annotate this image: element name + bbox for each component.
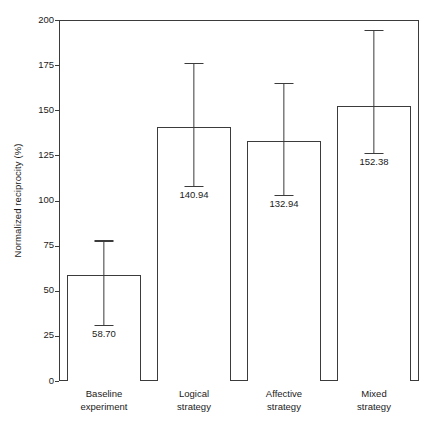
x-tick-label: Baselineexperiment <box>81 388 128 413</box>
bar-value-label: 140.94 <box>179 189 208 200</box>
error-bar-cap-lower <box>275 195 294 196</box>
error-bar-line <box>193 63 194 186</box>
y-axis-tick-labels: 0255075100125150175200 <box>28 0 54 436</box>
y-tick-label: 50 <box>28 285 54 295</box>
x-tick-label-line: strategy <box>266 401 302 414</box>
x-tick-label-line: Baseline <box>81 388 128 401</box>
y-tick-mark <box>55 381 59 382</box>
x-axis-tick-labels: BaselineexperimentLogicalstrategyAffecti… <box>59 385 419 431</box>
y-tick-label: 75 <box>28 240 54 250</box>
y-tick-label: 25 <box>28 330 54 340</box>
error-bar-cap-lower <box>365 153 384 154</box>
y-axis-title: Normalized reciprocity (%) <box>12 20 26 381</box>
x-tick-label: Affectivestrategy <box>266 388 302 413</box>
error-bar-cap-lower <box>95 325 114 326</box>
x-tick-label-line: experiment <box>81 401 128 414</box>
x-tick-label: Mixedstrategy <box>357 388 391 413</box>
error-bar-line <box>283 83 284 195</box>
error-bar-cap-upper <box>365 30 384 31</box>
bar-chart-figure: Normalized reciprocity (%) 0255075100125… <box>0 0 432 436</box>
y-tick-label: 125 <box>28 150 54 160</box>
x-tick-label: Logicalstrategy <box>177 388 211 413</box>
error-bar-cap-lower <box>185 186 204 187</box>
y-tick-label: 0 <box>28 376 54 386</box>
y-tick-label: 100 <box>28 195 54 205</box>
y-tick-label: 175 <box>28 60 54 70</box>
error-bar-cap-upper <box>275 83 294 84</box>
x-tick-label-line: Logical <box>177 388 211 401</box>
bar-value-label: 132.94 <box>269 198 298 209</box>
plot-area: 58.70140.94132.94152.38 <box>59 20 419 381</box>
y-tick-label: 200 <box>28 15 54 25</box>
x-tick-label-line: Mixed <box>357 388 391 401</box>
error-bar-line <box>373 30 374 153</box>
x-tick-label-line: strategy <box>357 401 391 414</box>
bar-value-label: 152.38 <box>359 156 388 167</box>
x-tick-label-line: strategy <box>177 401 211 414</box>
y-tick-label: 150 <box>28 105 54 115</box>
bar-value-label: 58.70 <box>92 328 116 339</box>
error-bar-cap-upper <box>185 63 204 64</box>
x-tick-label-line: Affective <box>266 388 302 401</box>
error-bar-line <box>103 240 104 325</box>
error-bar-cap-upper <box>95 240 114 241</box>
